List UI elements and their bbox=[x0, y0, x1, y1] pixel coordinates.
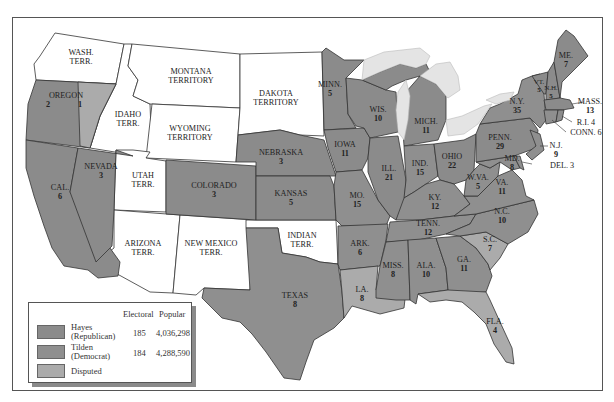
label-montana: MONTANATERRITORY bbox=[168, 67, 213, 85]
legend-hayes-popular: 4,036,298 bbox=[156, 328, 190, 338]
leader-del bbox=[522, 162, 532, 164]
legend: Electoral Popular Hayes (Republican) 185… bbox=[28, 302, 192, 383]
label-dakota: DAKOTATERRITORY bbox=[253, 89, 298, 107]
legend-row-disputed: Disputed bbox=[37, 361, 127, 381]
region-fla bbox=[418, 290, 514, 364]
label-del: DEL. 3 bbox=[550, 161, 574, 170]
label-utah: UTAHTERR. bbox=[132, 171, 155, 189]
legend-label-disputed: Disputed bbox=[71, 367, 127, 376]
legend-swatch-hayes bbox=[37, 325, 65, 339]
label-oregon: OREGON bbox=[49, 91, 83, 100]
legend-swatch-tilden bbox=[37, 345, 65, 359]
legend-row-tilden: Tilden (Democrat) bbox=[37, 342, 127, 362]
legend-label-tilden: Tilden (Democrat) bbox=[71, 343, 127, 361]
label-mass: MASS.13 bbox=[578, 97, 602, 115]
label-ri: R.I. 4 bbox=[577, 118, 595, 127]
label-indian: INDIANTERR. bbox=[287, 231, 316, 249]
legend-label-hayes: Hayes (Republican) bbox=[71, 323, 127, 341]
label-wyoming: WYOMINGTERRITORY bbox=[167, 124, 212, 142]
legend-tilden-popular: 4,288,590 bbox=[156, 348, 190, 358]
legend-row-hayes: Hayes (Republican) bbox=[37, 322, 127, 342]
leader-ri bbox=[562, 116, 572, 122]
region-me bbox=[554, 30, 588, 98]
label-conn: CONN. 6 bbox=[570, 128, 601, 137]
legend-tilden-electoral: 184 bbox=[133, 348, 146, 358]
legend-header-electoral: Electoral bbox=[123, 309, 154, 319]
legend-swatch-disputed bbox=[37, 364, 65, 378]
region-kansas bbox=[256, 176, 336, 220]
legend-hayes-electoral: 185 bbox=[133, 328, 146, 338]
label-nj: N.J.9 bbox=[549, 141, 562, 159]
legend-header-popular: Popular bbox=[159, 309, 185, 319]
label-wash: WASH.TERR. bbox=[68, 48, 93, 66]
label-idaho: IDAHOTERR. bbox=[115, 110, 141, 128]
label-oregon-votes: 2 bbox=[46, 100, 50, 109]
label-oregon-disputed-votes: 1 bbox=[78, 100, 82, 109]
leader-conn bbox=[552, 120, 566, 132]
